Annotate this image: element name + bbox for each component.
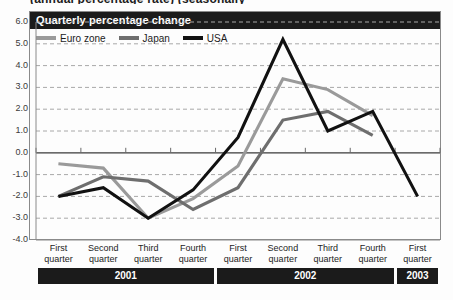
year-band-2001: 2001	[38, 268, 215, 284]
quarter-line1: First	[395, 243, 440, 254]
quarter-line1: Second	[81, 243, 126, 254]
year-band-2003: 2003	[397, 268, 439, 284]
x-axis-quarter-label: Fourthquarter	[350, 243, 395, 265]
x-axis-quarter-label: Secondquarter	[81, 243, 126, 265]
quarter-line1: Second	[260, 243, 305, 254]
year-band-2002: 2002	[217, 268, 394, 284]
x-axis-quarter-label: Thirdquarter	[305, 243, 350, 265]
quarter-line2: quarter	[216, 254, 261, 265]
quarter-line2: quarter	[395, 254, 440, 265]
x-axis-quarter-label: Firstquarter	[216, 243, 261, 265]
quarter-line2: quarter	[171, 254, 216, 265]
x-axis-quarter-label: Fourthquarter	[171, 243, 216, 265]
quarter-line2: quarter	[305, 254, 350, 265]
x-axis-labels: FirstquarterSecondquarterThirdquarterFou…	[0, 243, 453, 267]
quarter-line1: Fourth	[350, 243, 395, 254]
quarter-line2: quarter	[350, 254, 395, 265]
x-axis-quarter-label: Firstquarter	[395, 243, 440, 265]
chart-screenshot: (annual percentage rate) (seasonally 6.0…	[0, 0, 453, 300]
quarter-line2: quarter	[36, 254, 81, 265]
series-line-usa	[58, 39, 417, 218]
quarter-line1: Fourth	[171, 243, 216, 254]
x-axis-quarter-label: Thirdquarter	[126, 243, 171, 265]
quarter-line2: quarter	[81, 254, 126, 265]
x-axis-quarter-label: Secondquarter	[260, 243, 305, 265]
quarter-line1: First	[216, 243, 261, 254]
quarter-line1: First	[36, 243, 81, 254]
quarter-line1: Third	[126, 243, 171, 254]
quarter-line2: quarter	[126, 254, 171, 265]
quarter-line1: Third	[305, 243, 350, 254]
x-axis-quarter-label: Firstquarter	[36, 243, 81, 265]
quarter-line2: quarter	[260, 254, 305, 265]
